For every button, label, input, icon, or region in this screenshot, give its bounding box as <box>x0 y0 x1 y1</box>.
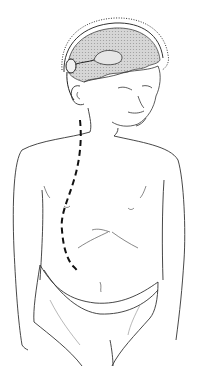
child-figure <box>0 0 200 386</box>
ear <box>71 86 84 105</box>
underwear <box>34 265 158 366</box>
medical-illustration <box>0 0 200 386</box>
chest-details <box>44 186 146 292</box>
shunt-catheter-path <box>62 120 81 272</box>
